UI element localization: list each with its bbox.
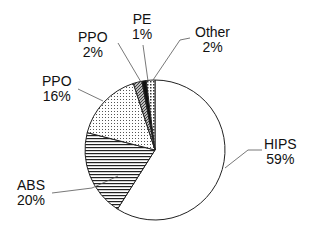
label-abs: ABS20%	[17, 178, 45, 208]
label-other: Other2%	[195, 25, 230, 55]
label-pe: PE1%	[132, 12, 152, 42]
pie-svg	[0, 0, 313, 232]
label-ppo-2: PPO2%	[78, 30, 108, 60]
label-hips: HIPS59%	[264, 137, 297, 167]
label-ppo-16: PPO16%	[42, 74, 72, 104]
pie-chart: HIPS59% ABS20% PPO16% PPO2% PE1% Other2%	[0, 0, 313, 232]
